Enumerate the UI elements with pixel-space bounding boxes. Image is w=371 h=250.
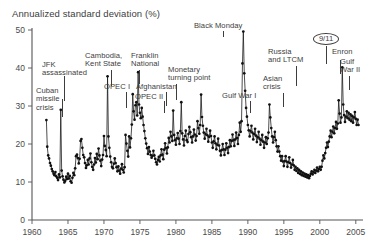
data-point: [158, 160, 161, 163]
annotation-russia-and-ltcm: Russia and LTCM: [268, 48, 303, 65]
data-point: [172, 109, 175, 112]
data-point: [181, 132, 184, 135]
data-point: [57, 179, 60, 182]
data-point: [270, 127, 273, 130]
data-point: [100, 165, 103, 168]
data-point: [160, 148, 163, 151]
data-point: [125, 142, 128, 145]
data-point: [47, 154, 50, 157]
data-point: [123, 166, 126, 169]
data-point: [45, 119, 48, 122]
data-point: [242, 30, 245, 33]
data-point: [257, 130, 260, 133]
data-point: [213, 135, 216, 138]
data-point: [121, 163, 124, 166]
data-point: [148, 146, 151, 149]
annotation-leader-line: [283, 93, 284, 107]
x-tick-label: 1995: [274, 227, 293, 237]
data-point: [176, 132, 179, 135]
annotation-leader-line: [64, 76, 65, 101]
data-point: [73, 174, 76, 177]
data-point: [330, 136, 333, 139]
data-point: [233, 145, 236, 148]
y-tick-label: 30: [16, 101, 26, 111]
annotation-jfk-assassinated: JFK assassinated: [42, 61, 87, 78]
data-point: [238, 134, 241, 137]
y-tick-label: 50: [16, 25, 26, 35]
data-point: [321, 159, 324, 162]
data-point: [263, 146, 266, 149]
data-point: [78, 157, 81, 160]
data-point: [283, 165, 286, 168]
y-axis: 01020304050: [16, 25, 32, 225]
data-point: [327, 140, 330, 143]
data-point: [327, 146, 330, 149]
annotation-9-11-badge: 9/11: [313, 33, 339, 45]
data-point: [67, 172, 70, 175]
data-point: [142, 124, 145, 127]
data-point: [184, 129, 187, 132]
data-point: [124, 134, 127, 137]
data-point: [240, 120, 243, 123]
data-point: [161, 153, 164, 156]
data-point: [148, 150, 151, 153]
annotation-asian-crisis: Asian crisis: [263, 75, 282, 92]
x-tick-label: 2005: [346, 227, 365, 237]
data-point: [319, 168, 322, 171]
data-point: [67, 177, 70, 180]
x-tick-label: 2000: [310, 227, 329, 237]
data-point: [197, 127, 200, 130]
y-tick-label: 0: [20, 215, 25, 225]
data-point: [274, 130, 277, 133]
data-point: [188, 126, 191, 129]
data-point: [339, 121, 342, 124]
data-point: [259, 143, 262, 146]
annotation-enron: Enron: [332, 48, 353, 56]
data-point: [171, 140, 174, 143]
data-point: [340, 116, 343, 119]
data-point: [274, 139, 277, 142]
data-point: [117, 165, 120, 168]
data-point: [201, 116, 204, 119]
data-point: [70, 181, 73, 184]
data-point: [217, 137, 220, 140]
data-point: [48, 157, 51, 160]
data-point: [333, 132, 336, 135]
annotation-opec-i: OPEC I: [104, 83, 130, 91]
data-point: [357, 124, 360, 127]
data-point: [77, 162, 80, 165]
annotation-leader-line: [166, 92, 167, 106]
data-point: [168, 141, 171, 144]
data-point: [322, 154, 325, 157]
data-point: [281, 155, 284, 158]
data-point: [122, 171, 125, 174]
data-point: [136, 114, 139, 117]
data-point: [50, 164, 53, 167]
data-point: [354, 111, 357, 114]
data-point: [110, 161, 113, 164]
data-point: [68, 175, 71, 178]
data-point: [121, 168, 124, 171]
data-point: [236, 137, 239, 140]
data-point: [129, 146, 132, 149]
data-point: [336, 127, 339, 130]
y-tick-label: 10: [16, 177, 26, 187]
data-point: [177, 137, 180, 140]
data-point: [112, 167, 115, 170]
data-point: [109, 155, 112, 158]
data-point: [130, 137, 133, 140]
data-point: [245, 107, 248, 110]
data-point: [140, 107, 143, 110]
annotation-leader-line: [164, 101, 165, 113]
x-axis: 1960196519701975198019851990199520002005: [23, 220, 366, 237]
data-point: [127, 155, 130, 158]
data-point: [248, 135, 251, 138]
data-point: [180, 101, 183, 104]
data-point: [103, 135, 106, 138]
data-point: [92, 168, 95, 171]
data-point: [96, 158, 99, 161]
data-point: [196, 120, 199, 123]
data-point: [320, 165, 323, 168]
annotation-leader-line: [349, 76, 350, 90]
data-point: [103, 145, 106, 148]
